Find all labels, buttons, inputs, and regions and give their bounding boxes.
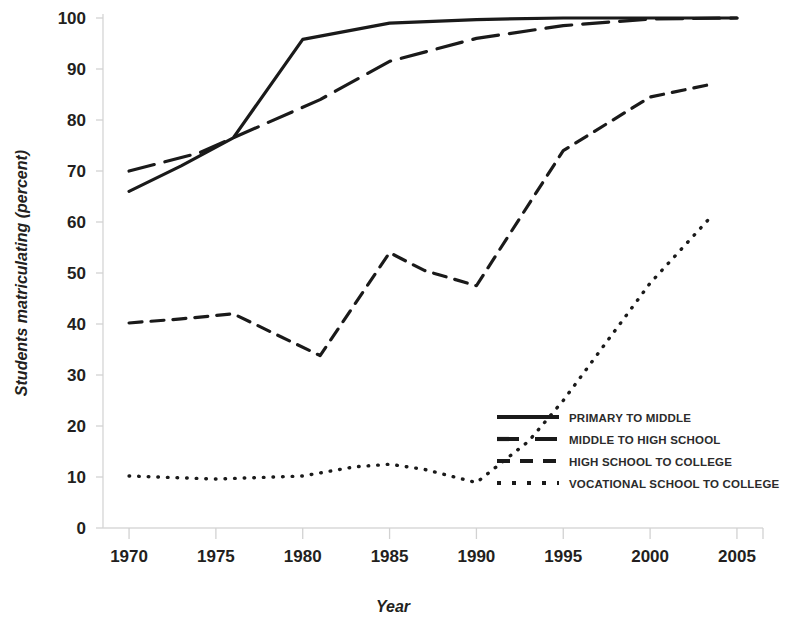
legend-label: PRIMARY TO MIDDLE	[569, 412, 691, 424]
x-tick-label: 1990	[458, 547, 496, 566]
x-tick-label: 2005	[718, 547, 756, 566]
y-tick-label: 100	[58, 9, 86, 28]
legend-label: VOCATIONAL SCHOOL TO COLLEGE	[569, 478, 780, 490]
x-tick-label: 1975	[197, 547, 235, 566]
y-axis-ticks	[96, 18, 103, 528]
legend-item: VOCATIONAL SCHOOL TO COLLEGE	[497, 478, 780, 490]
y-tick-label: 70	[67, 162, 86, 181]
y-axis-title: Students matriculating (percent)	[13, 150, 30, 396]
y-tick-label: 90	[67, 60, 86, 79]
y-axis: 0102030405060708090100	[58, 9, 103, 538]
chart-legend: PRIMARY TO MIDDLEMIDDLE TO HIGH SCHOOLHI…	[497, 412, 780, 490]
y-axis-tick-labels: 0102030405060708090100	[58, 9, 86, 538]
y-tick-label: 50	[67, 264, 86, 283]
chart-canvas: 0102030405060708090100 19701975198019851…	[0, 0, 804, 622]
legend-item: MIDDLE TO HIGH SCHOOL	[497, 434, 721, 446]
y-tick-label: 20	[67, 417, 86, 436]
line-chart: 0102030405060708090100 19701975198019851…	[0, 0, 804, 622]
series-line-2	[129, 84, 711, 355]
y-tick-label: 10	[67, 468, 86, 487]
y-tick-label: 0	[77, 519, 86, 538]
x-tick-label: 1985	[371, 547, 409, 566]
legend-item: PRIMARY TO MIDDLE	[497, 412, 691, 424]
series-line-0	[129, 18, 737, 191]
legend-item: HIGH SCHOOL TO COLLEGE	[497, 456, 732, 468]
x-axis: 19701975198019851990199520002005	[103, 528, 763, 566]
x-tick-label: 1995	[544, 547, 582, 566]
x-axis-ticks	[129, 528, 763, 539]
y-tick-label: 30	[67, 366, 86, 385]
series-line-1	[129, 18, 737, 171]
x-tick-label: 1980	[284, 547, 322, 566]
y-tick-label: 60	[67, 213, 86, 232]
y-tick-label: 80	[67, 111, 86, 130]
legend-label: HIGH SCHOOL TO COLLEGE	[569, 456, 732, 468]
x-tick-label: 1970	[110, 547, 148, 566]
legend-label: MIDDLE TO HIGH SCHOOL	[569, 434, 721, 446]
x-tick-label: 2000	[631, 547, 669, 566]
x-axis-title: Year	[376, 598, 411, 615]
x-axis-tick-labels: 19701975198019851990199520002005	[110, 547, 756, 566]
y-tick-label: 40	[67, 315, 86, 334]
